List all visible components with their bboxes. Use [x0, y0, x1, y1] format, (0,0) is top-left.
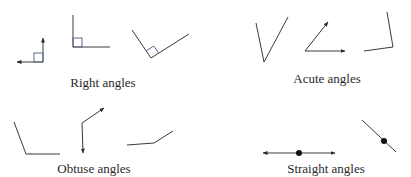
obtuse-angle-2 [82, 108, 104, 153]
caption-straight-angles: Straight angles [287, 162, 365, 175]
angles-diagram [0, 0, 411, 177]
acute-angle-2 [305, 22, 345, 51]
obtuse-angle-1 [14, 122, 60, 154]
right-angle-2 [73, 15, 110, 47]
right-angle-marker [73, 38, 82, 47]
straight-angle-2 [362, 120, 396, 152]
caption-obtuse-angles: Obtuse angles [57, 162, 130, 175]
caption-acute-angles: Acute angles [293, 72, 361, 85]
right-angle-3 [132, 30, 189, 58]
right-angle-marker [146, 46, 158, 53]
obtuse-angle-3 [127, 131, 173, 145]
acute-angle-3 [364, 12, 393, 51]
right-angle-1 [17, 38, 43, 62]
vertex-dot [296, 150, 302, 156]
right-angle-marker [34, 53, 43, 62]
vertex-dot [381, 138, 387, 144]
straight-angle-1 [263, 150, 335, 156]
caption-right-angles: Right angles [70, 76, 135, 89]
acute-angle-1 [256, 17, 288, 62]
